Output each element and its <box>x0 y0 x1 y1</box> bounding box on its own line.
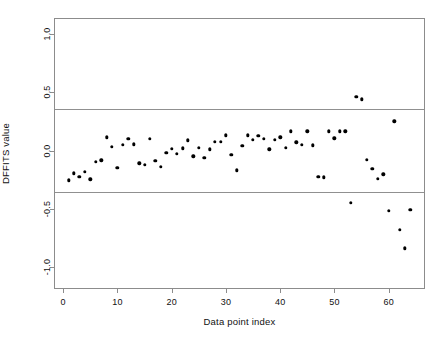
data-point <box>181 147 184 150</box>
data-point <box>170 147 173 150</box>
data-point <box>203 156 206 159</box>
x-axis-tick-label: 20 <box>166 297 176 307</box>
data-point <box>306 130 309 133</box>
x-axis-tick <box>172 288 173 293</box>
y-axis-title: DFFITS value <box>0 18 14 289</box>
data-point <box>382 173 385 176</box>
data-point <box>349 201 352 204</box>
y-axis-tick-label: -0.5 <box>42 209 52 225</box>
data-point <box>121 143 124 146</box>
data-point <box>289 130 292 133</box>
data-point <box>78 175 81 178</box>
upper-dffits-threshold <box>55 109 424 110</box>
data-point <box>175 152 178 155</box>
x-axis-tick-label: 40 <box>275 297 285 307</box>
data-point <box>409 208 412 211</box>
plot-area <box>55 19 424 288</box>
data-point <box>213 140 216 143</box>
data-point <box>246 134 249 137</box>
data-point <box>273 138 276 141</box>
data-point <box>208 148 211 151</box>
data-point <box>159 165 162 168</box>
data-point <box>360 98 363 101</box>
data-point <box>284 146 287 149</box>
data-point <box>219 140 222 143</box>
x-axis-tick-label: 50 <box>329 297 339 307</box>
data-point <box>387 209 390 212</box>
x-axis-title: Data point index <box>54 316 425 327</box>
data-point <box>154 159 157 162</box>
data-point <box>322 176 325 179</box>
data-point <box>132 142 135 145</box>
data-point <box>300 143 303 146</box>
data-point <box>371 167 374 170</box>
data-point <box>137 162 140 165</box>
data-point <box>165 151 168 154</box>
data-point <box>186 138 189 141</box>
x-axis-tick-label: 10 <box>112 297 122 307</box>
data-point <box>268 148 271 151</box>
data-point <box>148 137 151 140</box>
x-axis-tick <box>280 288 281 293</box>
data-point <box>344 130 347 133</box>
x-axis-tick <box>63 288 64 293</box>
data-point <box>116 166 119 169</box>
data-point <box>105 135 108 138</box>
data-point <box>83 170 86 173</box>
y-axis-tick-label: 0.5 <box>42 92 52 105</box>
data-point <box>241 144 244 147</box>
x-axis-tick <box>226 288 227 293</box>
dffits-scatter-figure: 1.00.50.0-0.5-1.00102030405060 Data poin… <box>0 0 446 342</box>
data-point <box>143 163 146 166</box>
data-point <box>224 134 227 137</box>
data-point <box>262 137 265 140</box>
data-point <box>251 138 254 141</box>
data-point <box>235 169 238 172</box>
data-point <box>392 120 395 123</box>
data-point <box>403 247 406 250</box>
data-point <box>398 228 401 231</box>
data-point <box>67 179 70 182</box>
x-axis-tick <box>334 288 335 293</box>
plot-panel: 1.00.50.0-0.5-1.00102030405060 <box>54 18 425 289</box>
y-axis-tick-label: 0.0 <box>42 151 52 164</box>
data-point <box>376 177 379 180</box>
x-axis-tick <box>117 288 118 293</box>
data-point <box>230 153 233 156</box>
data-point <box>197 146 200 149</box>
data-point <box>295 141 298 144</box>
y-axis-tick-label: 1.0 <box>42 34 52 47</box>
x-axis-tick-label: 0 <box>61 297 66 307</box>
data-point <box>127 137 130 140</box>
x-axis-tick-label: 60 <box>384 297 394 307</box>
data-point <box>192 155 195 158</box>
data-point <box>89 177 92 180</box>
data-point <box>354 95 357 98</box>
y-axis-tick-label: -1.0 <box>42 267 52 283</box>
lower-dffits-threshold <box>55 192 424 193</box>
data-point <box>257 134 260 137</box>
data-point <box>110 145 113 148</box>
data-point <box>316 175 319 178</box>
data-point <box>94 160 97 163</box>
x-axis-tick <box>389 288 390 293</box>
data-point <box>333 137 336 140</box>
data-point <box>99 159 102 162</box>
data-point <box>278 135 281 138</box>
data-point <box>327 130 330 133</box>
data-point <box>72 172 75 175</box>
x-axis-tick-label: 30 <box>221 297 231 307</box>
data-point <box>338 130 341 133</box>
data-point <box>311 144 314 147</box>
data-point <box>365 158 368 161</box>
